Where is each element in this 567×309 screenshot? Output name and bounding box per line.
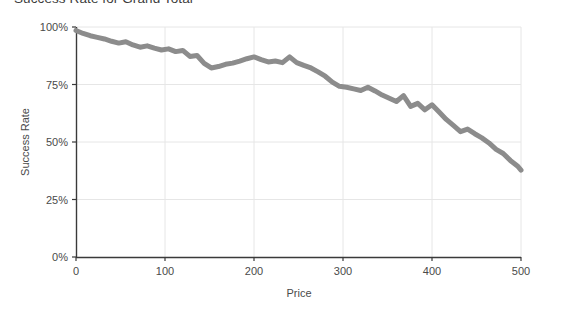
- x-tick-label: 0: [73, 265, 79, 277]
- x-tick-label: 500: [512, 265, 530, 277]
- line-chart-plot: 0%25%50%75%100% 0100200300400500 Success…: [0, 0, 567, 309]
- x-axis-title: Price: [286, 287, 311, 299]
- y-axis-title: Success Rate: [19, 108, 31, 176]
- y-tick-label: 0%: [52, 251, 68, 263]
- x-axis-tick-labels: 0100200300400500: [73, 265, 530, 277]
- success-rate-line: [76, 30, 521, 170]
- x-tick-label: 300: [334, 265, 352, 277]
- x-tick-label: 400: [423, 265, 441, 277]
- y-tick-label: 75%: [46, 79, 68, 91]
- x-tick-label: 200: [245, 265, 263, 277]
- y-tick-label: 25%: [46, 194, 68, 206]
- y-axis-tick-marks: [72, 27, 76, 257]
- chart-container: Success Rate for Grand Total 0%25%50%75%…: [0, 0, 567, 309]
- y-tick-label: 50%: [46, 136, 68, 148]
- y-axis-tick-labels: 0%25%50%75%100%: [40, 21, 68, 263]
- y-tick-label: 100%: [40, 21, 68, 33]
- x-tick-label: 100: [156, 265, 174, 277]
- horizontal-gridlines: [76, 27, 521, 200]
